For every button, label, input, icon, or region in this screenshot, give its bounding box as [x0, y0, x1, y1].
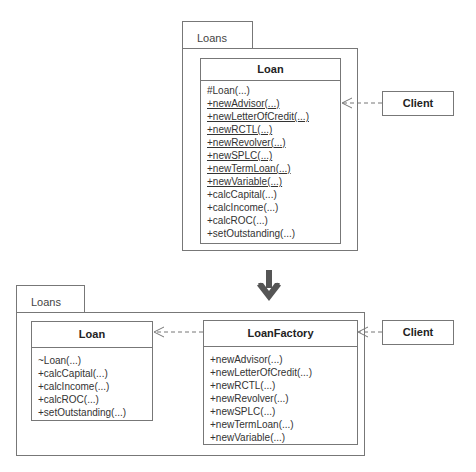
down-arrow-icon	[258, 270, 280, 298]
after-factory-to-loan-dependency	[154, 327, 203, 337]
connectors-layer	[0, 0, 476, 472]
before-dependency-arrow	[342, 98, 382, 108]
after-client-to-factory-dependency	[358, 327, 382, 337]
